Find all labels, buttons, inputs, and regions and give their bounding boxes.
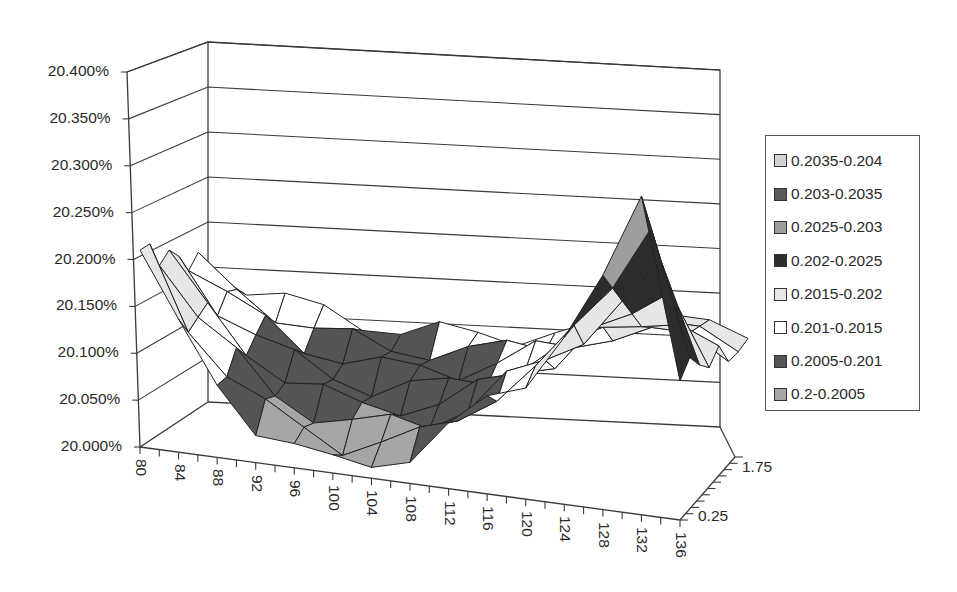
surface-mesh [140,196,748,467]
legend-label: 0.2025-0.203 [791,218,882,236]
legend-item: 0.201-0.2015 [774,311,919,344]
y-tick-label: 20.100% [11,343,119,361]
legend-label: 0.2035-0.204 [791,152,882,170]
legend-label: 0.2005-0.201 [791,352,882,370]
legend-swatch-icon [774,221,787,234]
legend-item: 0.2005-0.201 [774,344,919,377]
legend-swatch-icon [774,188,787,201]
legend-swatch-icon [774,254,787,267]
legend-swatch-icon [774,154,787,167]
legend-label: 0.202-0.2025 [791,252,882,270]
y-tick-label: 20.150% [9,296,117,314]
x-tick-label: 124 [556,516,574,542]
x-tick-label: 96 [286,480,304,497]
y-tick-label: 20.200% [8,250,116,268]
x-tick-label: 136 [672,532,690,558]
depth-tick-label: 1.75 [742,458,772,476]
legend-swatch-icon [774,321,787,334]
x-tick-label: 116 [479,506,497,531]
x-tick-label: 84 [171,464,189,481]
legend-swatch-icon [774,355,787,368]
legend-item: 0.2025-0.203 [774,211,919,244]
x-tick-label: 108 [402,496,420,522]
y-tick-label: 20.400% [1,62,109,80]
y-tick-label: 20.000% [14,437,122,455]
x-tick-label: 120 [518,511,536,537]
y-tick-label: 20.350% [3,109,111,127]
legend-item: 0.202-0.2025 [774,244,919,277]
x-tick-label: 112 [441,501,459,526]
x-tick-label: 92 [248,475,266,492]
x-tick-label: 100 [325,485,343,511]
legend-item: 0.2015-0.202 [774,278,919,311]
legend-label: 0.2-0.2005 [791,385,865,403]
legend-item: 0.2-0.2005 [774,378,919,411]
legend-item: 0.2035-0.204 [774,144,919,177]
y-tick-label: 20.250% [6,203,114,221]
legend-swatch-icon [774,288,787,301]
x-tick-label: 104 [363,490,381,516]
x-tick-label: 128 [595,522,613,548]
legend-swatch-icon [774,388,787,401]
y-tick-label: 20.050% [12,390,120,408]
legend-item: 0.203-0.2035 [774,177,919,210]
legend-label: 0.2015-0.202 [791,285,882,303]
legend: 0.2035-0.2040.203-0.20350.2025-0.2030.20… [765,135,920,411]
legend-label: 0.201-0.2015 [791,319,882,337]
y-tick-label: 20.300% [4,156,112,174]
x-tick-label: 80 [132,459,150,476]
x-tick-label: 88 [209,469,227,486]
legend-label: 0.203-0.2035 [791,185,882,203]
x-tick-label: 132 [633,527,651,553]
depth-tick-label: 0.25 [698,507,728,525]
